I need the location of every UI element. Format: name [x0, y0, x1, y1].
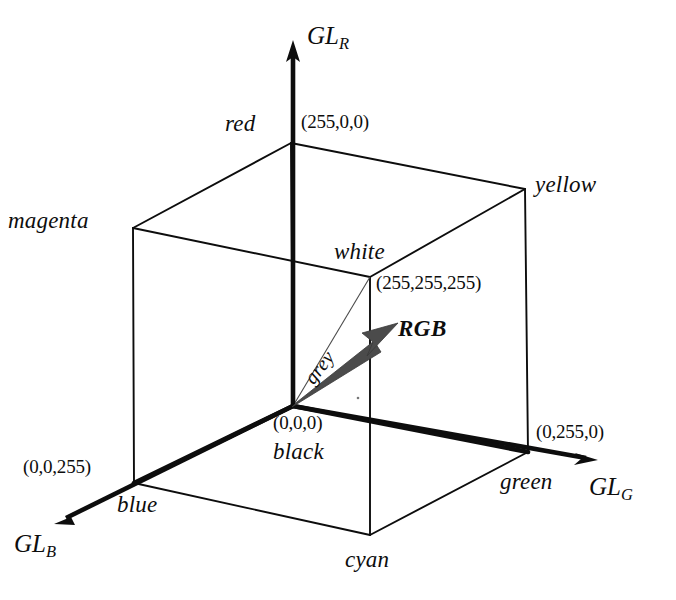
rgb-vector-label: RGB — [398, 317, 447, 340]
axis-label-red-prefix: GL — [307, 22, 339, 49]
vertex-coord-green: (0,255,0) — [536, 422, 604, 441]
scan-speck — [357, 397, 360, 400]
grey-diagonal-line — [293, 277, 370, 406]
rgb-colour-cube-figure: GLR GLG GLB red (255,0,0) magenta yellow… — [0, 0, 676, 600]
vertex-label-magenta: magenta — [8, 209, 89, 232]
vertex-label-white: white — [334, 240, 385, 263]
vertex-label-cyan: cyan — [345, 548, 389, 571]
vertex-coord-blue: (0,0,255) — [23, 457, 91, 476]
cube-drawing — [0, 0, 676, 600]
vertex-label-red: red — [225, 112, 255, 135]
axis-label-blue-subscript: B — [46, 542, 56, 561]
edge-magenta-blue — [133, 228, 134, 483]
edge-red-yellow — [291, 143, 525, 189]
axis-arrowhead-green — [574, 453, 598, 465]
vertex-label-black: black — [273, 440, 324, 463]
edge-red-magenta — [133, 143, 291, 228]
axis-label-green: GLG — [589, 474, 633, 503]
vertex-coord-red: (255,0,0) — [301, 112, 369, 131]
axis-label-red: GLR — [307, 23, 349, 52]
edge-white-yellow — [370, 189, 525, 277]
vertex-label-yellow: yellow — [535, 173, 596, 196]
edge-black-blue-thick — [134, 406, 293, 483]
axis-label-blue-prefix: GL — [14, 530, 46, 557]
edge-blue-cyan — [134, 483, 370, 535]
axis-label-green-subscript: G — [621, 485, 633, 504]
vertex-label-green: green — [500, 470, 553, 493]
axis-label-green-prefix: GL — [589, 473, 621, 500]
edge-black-green-thick — [293, 406, 528, 452]
vertex-label-blue: blue — [117, 493, 157, 516]
axis-label-blue: GLB — [14, 531, 56, 560]
axis-label-red-subscript: R — [339, 34, 349, 53]
edge-yellow-green — [525, 189, 528, 452]
vertex-coord-white: (255,255,255) — [376, 273, 481, 292]
vertex-coord-black: (0,0,0) — [273, 413, 322, 432]
